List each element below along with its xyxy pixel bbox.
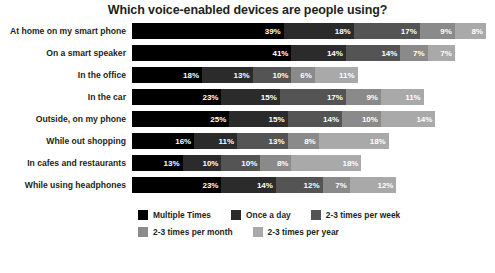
- bar-value-label: 17%: [327, 93, 343, 102]
- bar-segment: 14%: [288, 111, 342, 127]
- bar-segment: 7%: [428, 45, 455, 61]
- bar-value-label: 14%: [381, 49, 397, 58]
- chart-row: On a smart speaker41%14%14%7%7%: [0, 44, 495, 62]
- bar-segment: 18%: [319, 133, 389, 149]
- bar-segment: 11%: [315, 67, 358, 83]
- bar-value-label: 14%: [323, 115, 339, 124]
- legend-label: 2-3 times per year: [268, 227, 339, 237]
- bar-segment: 23%: [132, 177, 221, 193]
- chart-row: While using headphones23%14%12%7%12%: [0, 176, 495, 194]
- bar-value-label: 14%: [327, 49, 343, 58]
- bar-segment: 9%: [346, 89, 381, 105]
- bar-value-label: 9%: [366, 93, 378, 102]
- bar-segment: 14%: [346, 45, 400, 61]
- chart-row: Outside, on my phone25%15%14%10%14%: [0, 110, 495, 128]
- bar-segment: 18%: [291, 155, 361, 171]
- category-label: In the office: [0, 70, 132, 80]
- bar-value-label: 12%: [377, 181, 393, 190]
- bar-segment: 12%: [276, 177, 323, 193]
- bar-segment: 11%: [381, 89, 424, 105]
- bar-segment: 13%: [132, 155, 183, 171]
- chart-row: In the car23%15%17%9%11%: [0, 88, 495, 106]
- chart-row: In cafes and restaurants13%10%10%8%18%: [0, 154, 495, 172]
- legend-item[interactable]: Multiple Times: [138, 210, 211, 220]
- bar-value-label: 12%: [304, 181, 320, 190]
- bar-segment: 10%: [183, 155, 222, 171]
- bar-value-label: 9%: [440, 27, 452, 36]
- bar-value-label: 11%: [218, 137, 234, 146]
- bar-segment: 7%: [400, 45, 427, 61]
- legend-row: 2-3 times per month2-3 times per year: [138, 227, 495, 237]
- chart-row: At home on my smart phone39%18%17%9%8%: [0, 22, 495, 40]
- bar-value-label: 23%: [202, 93, 218, 102]
- stacked-bar: 13%10%10%8%18%: [132, 155, 495, 171]
- bar-value-label: 16%: [175, 137, 191, 146]
- bar-segment: 13%: [202, 67, 253, 83]
- bar-value-label: 18%: [335, 27, 351, 36]
- bar-segment: 17%: [280, 89, 346, 105]
- bar-segment: 8%: [260, 155, 291, 171]
- bar-segment: 14%: [291, 45, 345, 61]
- bar-segment: 18%: [284, 23, 354, 39]
- bar-value-label: 13%: [269, 137, 285, 146]
- bar-segment: 10%: [342, 111, 381, 127]
- category-label: In the car: [0, 92, 132, 102]
- bar-segment: 14%: [221, 177, 275, 193]
- bar-value-label: 18%: [370, 137, 386, 146]
- bar-segment: 11%: [194, 133, 237, 149]
- bar-value-label: 18%: [183, 71, 199, 80]
- bar-value-label: 6%: [300, 71, 312, 80]
- legend-label: 2-3 times per month: [153, 227, 233, 237]
- stacked-bar: 39%18%17%9%8%: [132, 23, 495, 39]
- bar-segment: 23%: [132, 89, 221, 105]
- bar-value-label: 41%: [272, 49, 288, 58]
- chart-legend: Multiple TimesOnce a day2-3 times per we…: [0, 210, 495, 244]
- bar-value-label: 15%: [261, 93, 277, 102]
- bar-value-label: 14%: [416, 115, 432, 124]
- bar-segment: 17%: [354, 23, 420, 39]
- stacked-bar: 41%14%14%7%7%: [132, 45, 495, 61]
- bar-segment: 8%: [455, 23, 486, 39]
- bar-value-label: 8%: [277, 159, 289, 168]
- bar-segment: 10%: [253, 67, 292, 83]
- bar-segment: 25%: [132, 111, 229, 127]
- bar-value-label: 23%: [202, 181, 218, 190]
- category-label: In cafes and restaurants: [0, 158, 132, 168]
- stacked-bar: 23%14%12%7%12%: [132, 177, 495, 193]
- stacked-bar: 25%15%14%10%14%: [132, 111, 495, 127]
- bar-segment: 6%: [291, 67, 314, 83]
- legend-label: Multiple Times: [153, 210, 211, 220]
- bar-segment: 8%: [288, 133, 319, 149]
- bar-value-label: 7%: [440, 49, 452, 58]
- category-label: Outside, on my phone: [0, 114, 132, 124]
- chart-container: Which voice-enabled devices are people u…: [0, 0, 495, 273]
- bar-value-label: 13%: [164, 159, 180, 168]
- bar-value-label: 11%: [405, 93, 421, 102]
- bar-value-label: 15%: [269, 115, 285, 124]
- bar-value-label: 10%: [202, 159, 218, 168]
- bar-value-label: 8%: [471, 27, 483, 36]
- bar-segment: 13%: [237, 133, 288, 149]
- bar-segment: 16%: [132, 133, 194, 149]
- legend-item[interactable]: 2-3 times per year: [253, 227, 339, 237]
- legend-row: Multiple TimesOnce a day2-3 times per we…: [138, 210, 495, 220]
- chart-row: While out shopping16%11%13%8%18%: [0, 132, 495, 150]
- bar-segment: 18%: [132, 67, 202, 83]
- bar-segment: 10%: [221, 155, 260, 171]
- legend-label: Once a day: [246, 210, 291, 220]
- legend-item[interactable]: Once a day: [231, 210, 291, 220]
- category-label: While using headphones: [0, 180, 132, 190]
- bar-segment: 15%: [221, 89, 279, 105]
- legend-swatch-icon: [311, 210, 321, 220]
- legend-item[interactable]: 2-3 times per week: [311, 210, 400, 220]
- bar-segment: 14%: [381, 111, 435, 127]
- legend-item[interactable]: 2-3 times per month: [138, 227, 233, 237]
- bar-value-label: 18%: [342, 159, 358, 168]
- bar-value-label: 39%: [265, 27, 281, 36]
- legend-swatch-icon: [138, 227, 148, 237]
- category-label: While out shopping: [0, 136, 132, 146]
- legend-swatch-icon: [231, 210, 241, 220]
- legend-swatch-icon: [138, 210, 148, 220]
- bar-segment: 7%: [323, 177, 350, 193]
- bar-value-label: 10%: [272, 71, 288, 80]
